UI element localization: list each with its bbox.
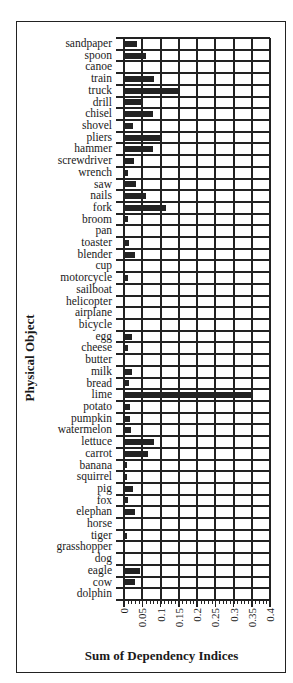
x-axis-title: Sum of Dependency Indices <box>0 648 293 664</box>
gridline-horizontal <box>116 540 270 542</box>
x-tick-label: 0.1 <box>155 608 167 622</box>
x-tick-label: 0.25 <box>209 608 221 627</box>
bar-elephan <box>124 509 135 515</box>
x-tick-label: 0.2 <box>191 608 203 622</box>
y-tick-label: pliers <box>86 131 112 143</box>
y-tick-label: motorcycle <box>60 271 112 283</box>
gridline-horizontal <box>116 178 270 180</box>
gridline-horizontal <box>116 377 270 379</box>
gridline-horizontal <box>116 306 270 308</box>
gridline-horizontal <box>116 248 270 250</box>
y-tick-label: dolphin <box>77 587 112 599</box>
y-tick-label: chisel <box>85 107 112 119</box>
gridline-horizontal <box>116 271 270 273</box>
gridline-horizontal <box>116 505 270 507</box>
gridline-horizontal <box>116 447 270 449</box>
bar-tiger <box>124 533 127 539</box>
gridline-horizontal <box>116 470 270 472</box>
y-tick-label: sandpaper <box>65 37 112 49</box>
bar-cheese <box>124 345 128 351</box>
y-tick-label: saw <box>94 178 112 190</box>
x-tick-label: 0.35 <box>246 608 258 627</box>
gridline-horizontal <box>116 131 270 133</box>
y-tick-label: canoe <box>85 60 112 72</box>
gridline-horizontal <box>116 388 270 390</box>
gridline-horizontal <box>116 84 270 86</box>
bar-banana <box>124 462 127 468</box>
gridline-horizontal <box>116 423 270 425</box>
y-tick-label: potato <box>83 400 112 412</box>
y-tick-label: cheese <box>81 341 112 353</box>
y-tick-label: screwdriver <box>58 154 112 166</box>
bar-lettuce <box>124 439 154 445</box>
bar-blender <box>124 252 135 258</box>
bar-nails <box>124 193 146 199</box>
bar-chisel <box>124 111 153 117</box>
y-tick-label: cow <box>93 576 112 588</box>
y-tick-label: egg <box>95 330 112 342</box>
y-tick-label: bread <box>86 377 112 389</box>
bar-broom <box>124 216 128 222</box>
gridline-horizontal <box>116 189 270 191</box>
y-tick-label: spoon <box>85 49 112 61</box>
gridline-horizontal <box>116 213 270 215</box>
gridline-horizontal <box>116 330 270 332</box>
y-tick-label: broom <box>82 213 112 225</box>
y-tick-label: train <box>91 72 112 84</box>
y-tick-label: toaster <box>81 236 112 248</box>
y-tick-label: fox <box>97 494 112 506</box>
gridline-horizontal <box>116 459 270 461</box>
gridline-horizontal <box>116 599 270 601</box>
bar-cow <box>124 579 135 585</box>
y-tick-label: lettuce <box>81 435 112 447</box>
gridline-horizontal <box>116 107 270 109</box>
y-tick-label: nails <box>90 189 112 201</box>
y-tick-label: sailboat <box>76 283 112 295</box>
gridline-horizontal <box>116 201 270 203</box>
gridline-horizontal <box>116 37 270 39</box>
y-tick-label: lime <box>92 388 112 400</box>
bar-screwdriver <box>124 158 134 164</box>
gridline-horizontal <box>116 341 270 343</box>
y-tick-label: hammer <box>74 142 112 154</box>
gridline-horizontal <box>116 166 270 168</box>
bar-drill <box>124 99 142 105</box>
bar-pumpkin <box>124 416 130 422</box>
bar-wrench <box>124 170 128 176</box>
gridline-horizontal <box>116 494 270 496</box>
gridline-horizontal <box>116 49 270 51</box>
gridline-horizontal <box>116 564 270 566</box>
gridline-horizontal <box>116 529 270 531</box>
bar-shovel <box>124 123 133 129</box>
bar-milk <box>124 369 132 375</box>
gridline-horizontal <box>116 295 270 297</box>
y-tick-label: grasshopper <box>56 540 112 552</box>
y-tick-label: banana <box>79 459 112 471</box>
bar-bread <box>124 380 129 386</box>
gridline-horizontal <box>116 60 270 62</box>
bar-motorcycle <box>124 275 128 281</box>
y-tick-label: fork <box>93 201 112 213</box>
gridline-horizontal <box>116 517 270 519</box>
gridline-horizontal <box>116 224 270 226</box>
gridline-horizontal <box>116 365 270 367</box>
x-tick-label: 0.15 <box>173 608 185 627</box>
gridline-horizontal <box>116 400 270 402</box>
gridline-horizontal <box>116 236 270 238</box>
x-tick-label: 0 <box>118 608 130 614</box>
gridline-horizontal <box>116 587 270 589</box>
y-tick-label: blender <box>78 248 112 260</box>
y-tick-label: pig <box>97 482 112 494</box>
gridline-horizontal <box>116 259 270 261</box>
y-tick-label: squirrel <box>77 470 112 482</box>
y-tick-label: milk <box>91 365 112 377</box>
bar-saw <box>124 181 136 187</box>
gridline-horizontal <box>116 353 270 355</box>
gridline-horizontal <box>116 283 270 285</box>
y-tick-label: airplane <box>75 306 112 318</box>
x-tick-label: 0.4 <box>264 608 276 622</box>
y-tick-label: bicycle <box>79 318 112 330</box>
gridline-horizontal <box>116 552 270 554</box>
y-tick-label: carrot <box>85 447 112 459</box>
bar-squirrel <box>124 474 127 480</box>
